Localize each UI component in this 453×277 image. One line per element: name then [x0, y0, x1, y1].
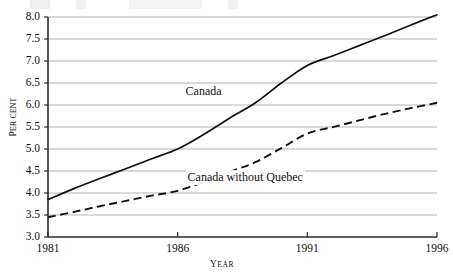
y-axis-title-lead: P: [8, 131, 18, 137]
x-tick-label: 1986: [155, 243, 201, 255]
x-tick-label: 1996: [414, 243, 453, 255]
series-label-canada: Canada: [184, 84, 224, 99]
y-axis-title: PER CENT: [8, 87, 18, 147]
series-label-canada-without-quebec: Canada without Quebec: [186, 170, 305, 185]
y-tick-label: 3.0: [10, 231, 40, 243]
y-tick-label: 7.0: [10, 55, 40, 67]
y-tick-label: 4.0: [10, 187, 40, 199]
x-axis-title-rest: EAR: [217, 260, 234, 269]
y-tick-label: 7.5: [10, 33, 40, 45]
y-tick-label: 4.5: [10, 165, 40, 177]
y-axis-title-rest: ER CENT: [9, 97, 18, 131]
y-tick-label: 3.5: [10, 209, 40, 221]
gridlines-group: [48, 17, 437, 215]
x-axis-title: YEAR: [0, 259, 444, 269]
y-tick-label: 8.0: [10, 11, 40, 23]
x-tick-label: 1981: [25, 243, 71, 255]
x-tick-label: 1991: [284, 243, 330, 255]
series-line-canada-without-quebec: [48, 103, 437, 217]
